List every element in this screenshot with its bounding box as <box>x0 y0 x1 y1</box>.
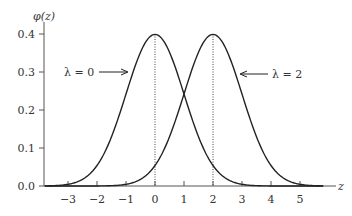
x-tick-label: 5 <box>297 193 304 206</box>
y-tick-label: 0.4 <box>18 28 36 41</box>
y-tick-label: 0.0 <box>18 180 36 193</box>
x-axis-label: z <box>337 180 344 193</box>
arrow-right-icon <box>99 69 128 75</box>
arrow-left-icon <box>240 71 268 77</box>
curve-lambda-2 <box>45 34 323 186</box>
x-tick-label: 0 <box>152 193 159 206</box>
y-tick-label: 0.1 <box>18 142 36 155</box>
y-tick-label: 0.2 <box>18 104 36 117</box>
annotation-lambda-2: λ = 2 <box>272 68 302 81</box>
y-tick-label: 0.3 <box>18 66 36 79</box>
chart: 0.0 0.1 0.2 0.3 0.4 φ(z) −3 −2 −1 0 1 2 … <box>0 0 352 216</box>
y-axis-label: φ(z) <box>33 10 55 23</box>
x-tick-label: 4 <box>268 193 275 206</box>
x-tick-label: −2 <box>89 193 105 206</box>
x-tick-label: 3 <box>239 193 246 206</box>
x-tick-label: 1 <box>181 193 188 206</box>
x-tick-label: −1 <box>118 193 134 206</box>
x-tick-label: 2 <box>210 193 217 206</box>
curve-lambda-0 <box>45 34 323 186</box>
y-ticks <box>39 34 44 186</box>
x-tick-label: −3 <box>60 193 76 206</box>
annotation-lambda-0: λ = 0 <box>64 66 94 79</box>
